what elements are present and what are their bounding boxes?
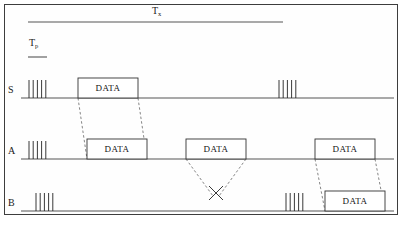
- data-packet-label: DATA: [87, 145, 147, 154]
- span-lines-group: [28, 22, 283, 57]
- collision-link-right: [219, 159, 246, 196]
- span-label-subscript: p: [35, 42, 38, 49]
- data-packet-label: DATA: [78, 84, 138, 93]
- link-s1-a1-left: [78, 98, 87, 159]
- diagram-canvas: [0, 0, 402, 227]
- span-label-tx: Tx: [152, 6, 161, 16]
- pulse-train-a-2: [29, 141, 46, 159]
- pulse-train-s-0: [29, 80, 46, 98]
- row-label-s: S: [8, 85, 14, 95]
- link-a3-b1-left: [315, 159, 325, 211]
- data-packet-label: DATA: [325, 197, 385, 206]
- span-label-tp: Tp: [29, 38, 38, 48]
- data-packet-label: DATA: [186, 145, 246, 154]
- collision-link-left: [186, 159, 213, 196]
- row-label-b: B: [8, 198, 15, 208]
- data-packet-label: DATA: [315, 145, 375, 154]
- row-label-a: A: [8, 146, 15, 156]
- pulse-train-b-4: [286, 193, 303, 211]
- timing-diagram-figure: Tx Tp S A B DATADATADATADATADATA: [0, 0, 402, 227]
- pulse-trains-group: [29, 80, 303, 211]
- collision-group: [186, 159, 246, 200]
- span-label-subscript: x: [158, 10, 161, 17]
- pulse-train-b-3: [36, 193, 53, 211]
- pulse-train-s-1: [279, 80, 296, 98]
